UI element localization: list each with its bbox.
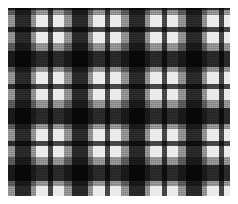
weft-band-black-block [8,108,230,124]
weft-band-charcoal-guard [8,27,230,32]
weft-band-black-block [8,51,230,67]
weft-band-charcoal-guard [8,141,230,146]
weft-band-mid-gray-band [8,43,230,51]
weft-band-mid-gray-band [8,124,230,129]
weft-band-mid-gray-band [8,67,230,72]
weft-band-mid-gray-band [8,100,230,108]
swatch-frame [0,0,238,204]
weft-band-mid-gray-band [8,10,230,15]
weft-stripe-layer [8,8,230,196]
weft-band-mid-gray-band [8,181,230,186]
weft-band-charcoal-guard [8,84,230,89]
weft-band-black-block [8,165,230,181]
tartan-plaid-pattern [8,8,230,196]
weft-band-mid-gray-band [8,157,230,165]
